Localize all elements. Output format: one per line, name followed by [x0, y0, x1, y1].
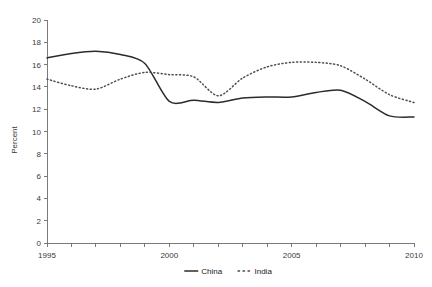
- y-tick-label: 4: [37, 194, 42, 203]
- line-chart-canvas: 02468101214161820 1995200020052010 Perce…: [0, 0, 432, 287]
- y-axis-ticks: [44, 20, 48, 243]
- y-tick-label: 18: [32, 38, 41, 47]
- y-tick-label: 16: [32, 61, 41, 70]
- x-tick-label: 2000: [160, 251, 178, 260]
- chart-legend: ChinaIndia: [184, 267, 272, 276]
- y-tick-label: 2: [37, 217, 42, 226]
- y-tick-label: 0: [37, 239, 42, 248]
- x-tick-label: 2010: [405, 251, 423, 260]
- x-tick-label: 1995: [38, 251, 56, 260]
- legend-label-china: China: [201, 267, 222, 276]
- series-line-india: [47, 62, 414, 103]
- y-axis-tick-labels: 02468101214161820: [32, 16, 41, 248]
- x-tick-label: 2005: [283, 251, 301, 260]
- x-axis-ticks: [47, 243, 414, 247]
- y-tick-label: 10: [32, 128, 41, 137]
- legend-label-india: India: [255, 267, 273, 276]
- y-tick-label: 14: [32, 83, 41, 92]
- data-series-layer: [47, 51, 414, 117]
- chart-figure: 02468101214161820 1995200020052010 Perce…: [0, 0, 432, 287]
- y-tick-label: 20: [32, 16, 41, 25]
- y-tick-label: 6: [37, 172, 42, 181]
- y-axis-title: Percent: [10, 125, 19, 153]
- y-tick-label: 12: [32, 105, 41, 114]
- x-axis-tick-labels: 1995200020052010: [38, 251, 423, 260]
- series-line-china: [47, 51, 414, 117]
- y-tick-label: 8: [37, 150, 42, 159]
